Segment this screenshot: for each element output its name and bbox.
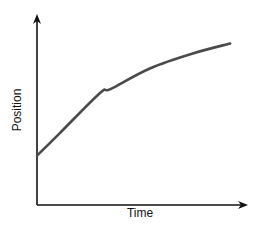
chart-plot-area xyxy=(0,0,256,232)
position-time-chart: Position Time xyxy=(0,0,256,232)
x-axis-label: Time xyxy=(115,206,165,220)
position-curve xyxy=(37,44,230,156)
y-axis-label: Position xyxy=(10,89,24,132)
